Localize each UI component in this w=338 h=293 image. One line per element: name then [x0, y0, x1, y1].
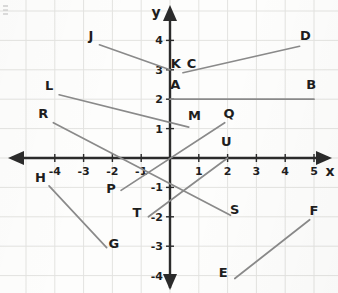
point-label-k: K — [171, 56, 182, 71]
line-segment-p-q — [121, 123, 225, 191]
corner-artifact-mark — [3, 5, 8, 15]
coordinate-plane-svg: -4-3-2-1123454321-1-2-3-4 JKCDABLMRQUPTS… — [0, 0, 338, 293]
x-tick-label: 4 — [281, 165, 289, 178]
y-tick-label: 2 — [155, 93, 163, 106]
point-label-s: S — [230, 202, 239, 217]
point-label-g: G — [109, 236, 120, 251]
x-tick-label: 2 — [224, 165, 232, 178]
point-label-q: Q — [224, 106, 235, 121]
point-label-b: B — [306, 77, 316, 92]
point-label-c: C — [187, 56, 197, 71]
x-tick-label: 5 — [310, 165, 318, 178]
point-label-a: A — [170, 77, 180, 92]
point-label-h: H — [35, 170, 46, 185]
coordinate-plane-figure: -4-3-2-1123454321-1-2-3-4 JKCDABLMRQUPTS… — [0, 0, 338, 293]
point-label-t: T — [132, 205, 141, 220]
x-tick-label: 1 — [195, 165, 203, 178]
y-tick-label: 1 — [155, 123, 163, 136]
point-label-d: D — [300, 28, 311, 43]
point-label-r: R — [38, 106, 48, 121]
y-tick-label: -4 — [151, 270, 164, 283]
x-tick-label: 3 — [253, 165, 261, 178]
point-label-u: U — [221, 134, 232, 149]
point-label-m: M — [188, 108, 201, 123]
point-label-j: J — [87, 28, 93, 43]
x-axis-label: x — [325, 163, 334, 179]
x-tick-label: -3 — [77, 165, 89, 178]
line-segments — [49, 45, 314, 279]
line-segment-e-f — [235, 220, 310, 279]
y-tick-label: -3 — [151, 240, 163, 253]
point-label-l: L — [45, 78, 53, 93]
point-label-e: E — [219, 265, 228, 280]
line-segment-j-k — [99, 45, 170, 70]
point-label-f: F — [310, 203, 319, 218]
point-label-p: P — [106, 181, 116, 196]
x-tick-label: -4 — [49, 165, 62, 178]
y-axis-arrow-up — [163, 5, 177, 21]
y-tick-label: 4 — [155, 34, 163, 47]
x-axis-arrow-left — [8, 151, 24, 165]
axis-lines — [8, 5, 332, 290]
x-tick-label: -2 — [106, 165, 118, 178]
y-axis-label: y — [151, 4, 160, 20]
line-segment-c-d — [183, 46, 300, 72]
y-axis-arrow-down — [163, 274, 177, 290]
y-tick-label: -1 — [151, 181, 163, 194]
